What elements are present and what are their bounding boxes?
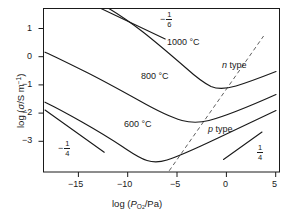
y-tick-label-1: 1 — [27, 24, 32, 33]
slope-sign-minus-one-sixth: − — [160, 15, 165, 24]
y-axis-title: log (σ/S m−1) — [16, 74, 26, 128]
curve-label-1000c: 1000 °C — [167, 38, 200, 47]
fraction-numerator: 1 — [64, 140, 70, 148]
slope-sign-minus-one-quarter: − — [58, 144, 63, 153]
x-axis-ticks — [78, 172, 275, 177]
curve-600c — [45, 102, 276, 162]
x-tick-label-minus10: −10 — [117, 180, 132, 189]
n-type-text: type — [227, 60, 247, 70]
fraction-one-quarter: 1 4 — [257, 144, 263, 161]
chart-canvas — [0, 0, 294, 220]
x-axis-title: log (PO2/Pa) — [112, 199, 162, 210]
fraction-one-sixth: 1 6 — [166, 11, 172, 28]
slope-guide-minus-one-sixth — [101, 9, 165, 40]
plot-frame — [44, 9, 280, 173]
slope-guide-minus-one-quarter — [45, 110, 104, 152]
curve-1000c — [109, 9, 276, 89]
p-type-text: type — [213, 124, 233, 134]
fraction-numerator: 1 — [257, 144, 263, 152]
y-tick-label-minus3: −3 — [22, 136, 32, 145]
fraction-minus-one-quarter: 1 4 — [64, 140, 70, 157]
curve-label-600c: 600 °C — [124, 120, 152, 129]
fraction-numerator: 1 — [166, 11, 172, 19]
curve-label-800c: 800 °C — [141, 72, 169, 81]
x-tick-label-minus15: −15 — [68, 180, 83, 189]
y-tick-label-0: 0 — [27, 52, 32, 61]
region-label-n-type: n type — [222, 61, 247, 70]
fraction-denominator: 4 — [257, 154, 263, 162]
y-axis-ticks — [39, 29, 44, 142]
x-tick-label-5: 5 — [272, 180, 277, 189]
figure-container: 1 0 −1 −2 −3 −15 −10 −5 0 5 log (PO2/Pa)… — [0, 0, 294, 220]
annotation-slope-minus-one-quarter: − 1 4 — [58, 140, 70, 157]
x-tick-label-0: 0 — [223, 180, 228, 189]
annotation-slope-minus-one-sixth: − 1 6 — [160, 11, 172, 28]
x-tick-label-minus5: −5 — [170, 180, 180, 189]
fraction-denominator: 4 — [64, 150, 70, 158]
annotation-slope-one-quarter: 1 4 — [256, 144, 263, 161]
region-label-p-type: p type — [208, 125, 233, 134]
fraction-denominator: 6 — [166, 21, 172, 29]
